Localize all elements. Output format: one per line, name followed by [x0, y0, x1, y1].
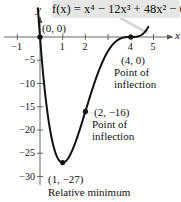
- key-point-marker: [37, 34, 42, 39]
- inflection-point-2-m16-caption-2: inflection: [92, 130, 134, 142]
- inflection-point-4-0-caption-2: inflection: [114, 78, 156, 90]
- y-tick-label: −20: [19, 125, 35, 135]
- formula-leader-line: [120, 18, 148, 33]
- inflection-point-2-m16-label: (2, −16): [94, 106, 130, 118]
- key-point-marker: [60, 160, 65, 165]
- y-axis-label: y: [36, 4, 41, 15]
- inflection-point-4-0-label: (4, 0): [121, 54, 145, 66]
- y-tick-label: −30: [19, 172, 35, 182]
- y-tick-label: −10: [19, 79, 35, 89]
- y-tick-label: −15: [19, 102, 35, 112]
- key-points: [37, 34, 133, 165]
- y-tick-label: −25: [19, 148, 35, 158]
- inflection-point-4-0-caption-1: Point of: [114, 66, 149, 78]
- origin-point-label: (0, 0): [42, 22, 66, 34]
- function-formula: f(x) = x⁴ − 12x³ + 48x² − 64x: [52, 0, 180, 18]
- formula-text: f(x) = x⁴ − 12x³ + 48x² − 64x: [52, 2, 181, 16]
- x-tick-label: 5: [151, 42, 156, 52]
- key-point-marker: [128, 34, 133, 39]
- x-tick-label: −1: [11, 42, 22, 52]
- y-tick-label: −5: [24, 55, 35, 65]
- x-axis-label: x: [175, 30, 180, 41]
- x-tick-label: 1: [60, 42, 65, 52]
- x-tick-label: 4: [128, 42, 133, 52]
- relative-minimum-caption: Relative minimum: [48, 186, 130, 198]
- x-tick-label: 2: [82, 42, 87, 52]
- relative-minimum-label: (1, −27): [48, 173, 84, 185]
- x-axis-arrow-icon: [167, 35, 174, 40]
- inflection-point-2-m16-caption-1: Point of: [92, 118, 127, 130]
- key-point-marker: [83, 109, 88, 114]
